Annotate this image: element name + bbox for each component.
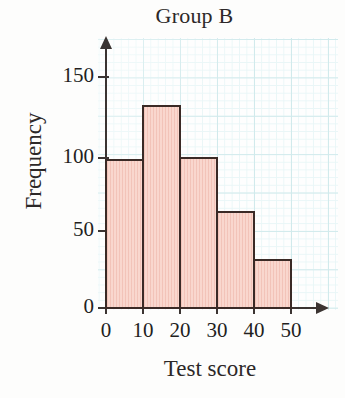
x-tick-label-0: 0 — [86, 318, 126, 343]
histogram-bar — [179, 157, 218, 309]
histogram-bar — [142, 105, 181, 309]
histogram-bar — [216, 211, 255, 309]
y-axis-title: Frequency — [21, 71, 47, 251]
arrow-up-icon — [100, 36, 112, 49]
x-axis-title: Test score — [95, 356, 325, 382]
chart-title: Group B — [0, 3, 345, 29]
histogram-bar — [105, 159, 144, 309]
histogram-bar — [253, 259, 292, 309]
arrow-right-icon — [316, 302, 329, 314]
y-tick-mark-150 — [98, 76, 109, 78]
x-tick-label-20: 20 — [160, 318, 200, 343]
y-tick-label-0: 0 — [24, 294, 94, 319]
x-tick-label-50: 50 — [271, 318, 311, 343]
histogram-figure: Group B 0 50 100 150 0 10 20 30 40 50 Fr… — [0, 0, 345, 398]
x-tick-label-10: 10 — [123, 318, 163, 343]
x-tick-label-30: 30 — [197, 318, 237, 343]
x-tick-label-40: 40 — [234, 318, 274, 343]
chart-title-text: Group B — [112, 3, 234, 28]
